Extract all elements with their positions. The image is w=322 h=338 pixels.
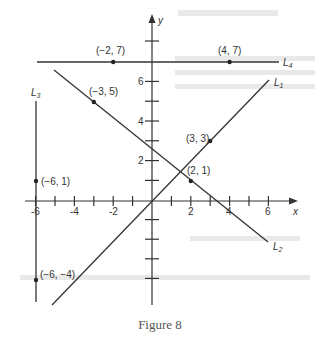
figure-caption: Figure 8 [138,317,182,332]
point-dot [189,179,193,183]
svg-text:-4: -4 [70,206,79,217]
line-L2 [54,70,268,242]
line-L1 [52,80,269,305]
point-label: (2, 1) [187,165,210,176]
point-dot [92,100,96,104]
point-label: (4, 7) [218,45,241,56]
y-axis [145,14,159,305]
point-dot [227,60,231,64]
svg-text:2: 2 [138,155,144,166]
y-axis-arrow-icon [149,14,156,23]
svg-text:-2: -2 [109,206,118,217]
point-dot [34,179,38,183]
figure-8-coordinate-plot: -6 -4 -2 2 4 6 2 4 6 x y L4 L1 L2 L3 (−2… [0,0,322,338]
x-axis [25,196,298,206]
svg-text:2: 2 [188,206,194,217]
label-L1: L1 [274,77,284,89]
point-label: (−2, 7) [96,45,125,56]
point-dot [34,278,38,282]
point-dot [111,60,115,64]
svg-text:4: 4 [226,206,232,217]
svg-text:6: 6 [138,76,144,87]
svg-text:4: 4 [138,116,144,127]
svg-text:6: 6 [265,206,271,217]
point-label: (−6, −4) [40,269,75,280]
y-axis-label: y [157,15,164,26]
point-label: (−3, 5) [89,86,118,97]
y-tick-labels: 2 4 6 [138,76,144,166]
x-axis-label: x [292,206,299,217]
bleed-through-text [20,10,315,280]
label-L2: L2 [273,241,283,253]
point-label: (−6, 1) [41,176,70,187]
point-label: (3, 3) [186,133,209,144]
label-L3: L3 [31,87,41,99]
x-axis-arrow-icon [289,198,298,205]
